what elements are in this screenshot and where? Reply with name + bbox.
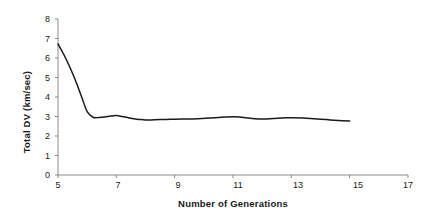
plot-area bbox=[0, 0, 433, 224]
data-series-line bbox=[58, 44, 350, 121]
chart-container: Total DV (km/sec) Number of Generations … bbox=[0, 0, 433, 224]
